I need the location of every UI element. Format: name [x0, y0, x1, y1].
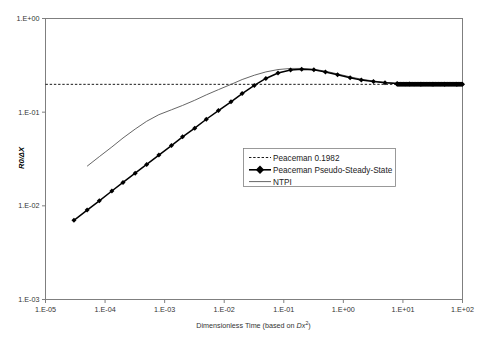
chart-container: 1.E-051.E-041.E-031.E-021.E-011.E+001.E+… [0, 0, 480, 339]
legend-label-peaceman: Peaceman 0.1982 [273, 154, 340, 163]
x-tick-label: 1.E+02 [451, 305, 474, 314]
chart-background [0, 0, 480, 339]
x-axis-title-italic: Dx [297, 321, 306, 330]
x-tick-label: 1.E+00 [332, 305, 355, 314]
x-axis-title-pre: Dimensionless Time (based on [196, 321, 296, 330]
y-tick-label: 1.E-03 [18, 295, 39, 304]
x-tick-label: 1.E+01 [391, 305, 414, 314]
x-tick-label: 1.E-04 [94, 305, 115, 314]
y-axis-title-main: R0/ [17, 156, 26, 169]
legend-label-ntpi: NTPI [273, 178, 292, 187]
x-axis-title: Dimensionless Time (based on Dx2) [196, 320, 310, 330]
chart-legend: Peaceman 0.1982 Peaceman Pseudo-Steady-S… [244, 149, 396, 187]
y-tick-label: 1.E-01 [18, 108, 39, 117]
y-axis-title-tail: X [17, 146, 26, 153]
legend-label-pseudo-steady-state: Peaceman Pseudo-Steady-State [273, 166, 393, 175]
y-axis-title: R0/ΔX [17, 146, 26, 169]
y-tick-label: 1.E+00 [17, 14, 40, 23]
x-tick-label: 1.E-05 [35, 305, 56, 314]
x-tick-label: 1.E-03 [154, 305, 175, 314]
log-log-plot: 1.E-051.E-041.E-031.E-021.E-011.E+001.E+… [0, 0, 480, 339]
y-tick-label: 1.E-02 [18, 201, 39, 210]
x-tick-label: 1.E-02 [214, 305, 235, 314]
x-tick-label: 1.E-01 [273, 305, 294, 314]
x-axis-title-post: ) [308, 321, 310, 330]
